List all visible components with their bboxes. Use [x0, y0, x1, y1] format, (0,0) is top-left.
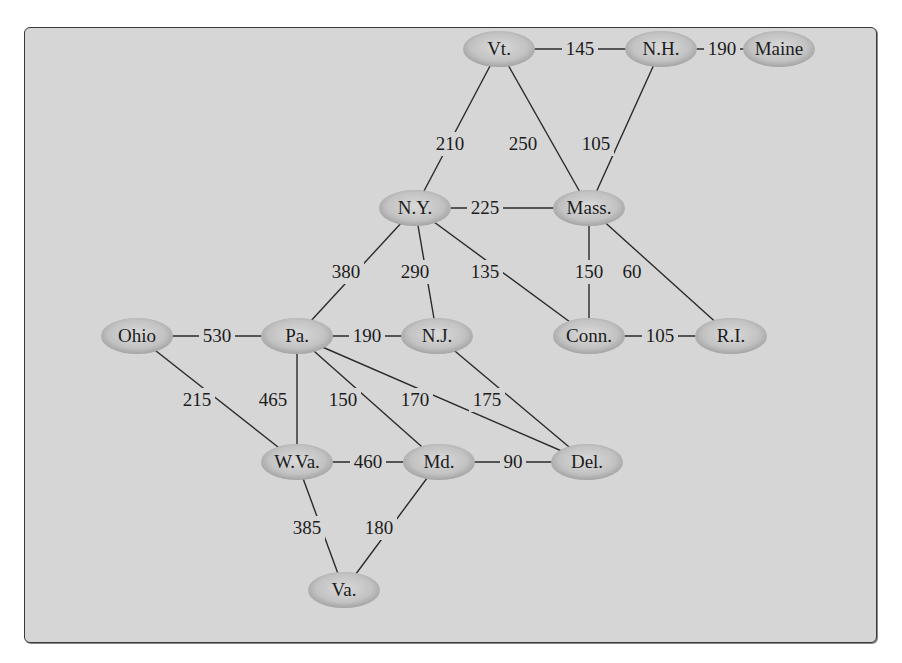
edge-ma-ri [589, 208, 731, 336]
edge-weight-label: 190 [708, 38, 737, 59]
edge-weight-label: 210 [436, 133, 465, 154]
edge-weight-label: 145 [566, 38, 595, 59]
diagram-panel: 1451902102501052253802901351506053019010… [24, 27, 877, 643]
node-ct: Conn. [553, 318, 625, 354]
node-label: Mass. [567, 197, 612, 218]
edge-weight-label: 380 [332, 261, 361, 282]
node-label: Vt. [487, 38, 511, 59]
state-distance-graph: 1451902102501052253802901351506053019010… [25, 28, 876, 642]
node-label: Conn. [566, 325, 612, 346]
node-va: Va. [308, 572, 380, 608]
node-de: Del. [551, 444, 623, 480]
node-nh: N.H. [625, 31, 697, 67]
edge-weight-label: 215 [183, 389, 212, 410]
edge-weight-label: 175 [473, 389, 502, 410]
edge-weight-label: 225 [471, 197, 500, 218]
node-label: Ohio [118, 325, 156, 346]
node-label: N.J. [422, 325, 453, 346]
node-pa: Pa. [261, 318, 333, 354]
edges-layer [137, 49, 779, 590]
node-wv: W.Va. [261, 444, 333, 480]
node-label: W.Va. [274, 451, 320, 472]
edge-weight-label: 530 [203, 325, 232, 346]
edge-weight-label: 170 [401, 389, 430, 410]
edge-nh-ma [589, 49, 661, 208]
node-oh: Ohio [101, 318, 173, 354]
edge-vt-ny [415, 49, 499, 208]
edge-vt-ma [499, 49, 589, 208]
node-ma: Mass. [553, 190, 625, 226]
node-label: R.I. [717, 325, 746, 346]
edge-weight-label: 105 [646, 325, 675, 346]
node-label: Va. [332, 579, 357, 600]
node-label: Md. [423, 451, 454, 472]
node-label: N.Y. [398, 197, 433, 218]
node-label: Maine [755, 38, 804, 59]
node-ny: N.Y. [379, 190, 451, 226]
node-me: Maine [743, 31, 815, 67]
node-label: N.H. [643, 38, 680, 59]
edge-weight-label: 180 [365, 517, 394, 538]
edge-weight-label: 60 [623, 261, 642, 282]
edge-weight-label: 90 [504, 451, 523, 472]
nodes-layer: Vt.N.H.MaineN.Y.Mass.OhioPa.N.J.Conn.R.I… [101, 31, 815, 608]
edge-weight-label: 150 [329, 389, 358, 410]
node-vt: Vt. [463, 31, 535, 67]
node-md: Md. [403, 444, 475, 480]
edge-weight-label: 250 [509, 133, 538, 154]
node-label: Pa. [285, 325, 309, 346]
node-ri: R.I. [695, 318, 767, 354]
edge-weight-label: 105 [582, 133, 611, 154]
edge-nj-de [437, 336, 587, 462]
edge-weight-label: 290 [401, 261, 430, 282]
node-nj: N.J. [401, 318, 473, 354]
edge-weight-label: 385 [293, 517, 322, 538]
edge-weight-label: 150 [575, 261, 604, 282]
edge-weight-label: 190 [353, 325, 382, 346]
edge-weight-label: 460 [354, 451, 383, 472]
edge-weight-label: 135 [471, 261, 500, 282]
node-label: Del. [571, 451, 603, 472]
edge-weight-label: 465 [259, 389, 288, 410]
